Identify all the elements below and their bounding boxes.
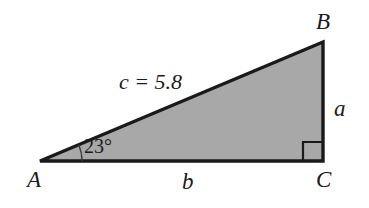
side-label-a: a: [334, 97, 346, 120]
vertex-label-c: C: [316, 168, 331, 191]
side-label-b: b: [182, 170, 194, 193]
vertex-label-a: A: [27, 168, 41, 191]
vertex-label-b: B: [316, 10, 330, 33]
side-label-hypotenuse: c = 5.8: [119, 71, 182, 93]
triangle-shape: [40, 42, 323, 161]
triangle-figure: A B C a b c = 5.8 23°: [0, 0, 369, 208]
angle-label-a: 23°: [84, 136, 112, 156]
